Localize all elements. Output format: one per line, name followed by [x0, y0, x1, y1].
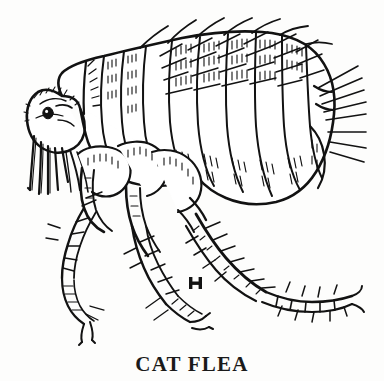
eye-icon — [43, 107, 53, 119]
middle-leg-claws — [190, 313, 213, 329]
cat-flea-illustration — [0, 0, 384, 381]
figure-page: CAT FLEA — [0, 0, 384, 381]
ink-layer — [24, 18, 366, 345]
scale-bar — [189, 277, 202, 289]
figure-caption: CAT FLEA — [0, 352, 384, 376]
hind-leg-claws — [352, 286, 364, 312]
foreleg-claws — [79, 322, 95, 345]
hind-leg — [178, 198, 364, 322]
